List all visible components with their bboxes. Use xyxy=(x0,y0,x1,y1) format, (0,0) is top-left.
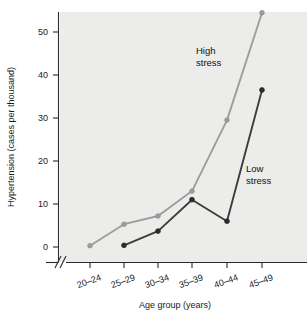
high-stress-point-20-24 xyxy=(88,243,93,248)
x-tick-label-30-34: 30–34 xyxy=(144,272,171,290)
low-stress-point-25-29 xyxy=(122,243,127,248)
y-axis-tick-labels: 0 10 20 30 40 50 xyxy=(38,27,48,252)
y-tick-label-0: 0 xyxy=(43,242,48,252)
high-stress-point-30-34 xyxy=(156,214,161,219)
y-tick-label-40: 40 xyxy=(38,70,48,80)
low-stress-label-line2: stress xyxy=(246,175,272,186)
high-stress-point-35-39 xyxy=(190,189,195,194)
y-tick-label-30: 30 xyxy=(38,113,48,123)
high-stress-point-25-29 xyxy=(122,222,127,227)
x-axis-ticks xyxy=(90,263,262,269)
x-axis-tick-labels: 20–24 25–29 30–34 35–39 40–44 45–49 xyxy=(76,272,275,290)
chart-canvas: 0 10 20 30 40 50 20–24 25–29 30–34 35–39… xyxy=(0,0,307,316)
x-tick-label-25-29: 25–29 xyxy=(110,272,137,290)
high-stress-label-line1: High xyxy=(196,45,216,56)
high-stress-point-45-49 xyxy=(260,10,265,15)
low-stress-point-45-49 xyxy=(260,88,265,93)
x-tick-label-35-39: 35–39 xyxy=(178,272,205,290)
low-stress-point-40-44 xyxy=(225,219,230,224)
x-tick-label-40-44: 40–44 xyxy=(213,272,240,290)
plot-background xyxy=(60,12,307,262)
y-axis-title: Hypertension (cases per thousand) xyxy=(6,67,16,207)
high-stress-point-40-44 xyxy=(225,118,230,123)
hypertension-line-chart: 0 10 20 30 40 50 20–24 25–29 30–34 35–39… xyxy=(0,0,307,316)
y-tick-label-20: 20 xyxy=(38,156,48,166)
x-tick-label-20-24: 20–24 xyxy=(76,272,103,290)
x-tick-label-45-49: 45–49 xyxy=(248,272,275,290)
y-tick-label-50: 50 xyxy=(38,27,48,37)
low-stress-label-line1: Low xyxy=(246,163,264,174)
y-tick-label-10: 10 xyxy=(38,199,48,209)
x-axis-title: Age group (years) xyxy=(139,300,211,310)
high-stress-label-line2: stress xyxy=(196,57,222,68)
y-axis-ticks xyxy=(53,32,59,247)
low-stress-point-30-34 xyxy=(156,229,161,234)
low-stress-point-35-39 xyxy=(190,197,195,202)
